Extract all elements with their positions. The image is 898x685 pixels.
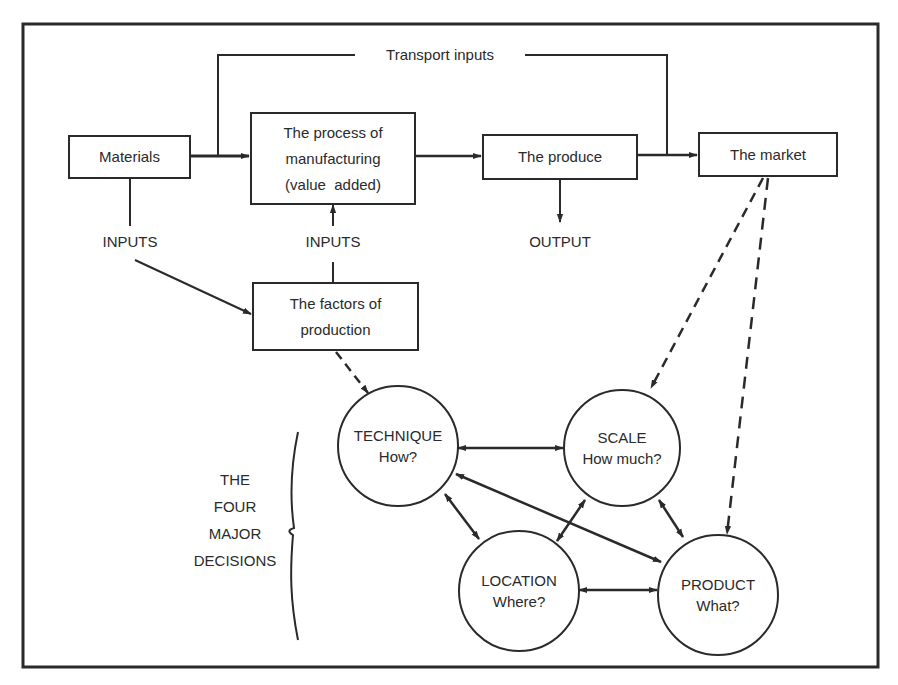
product-question: What? [696,595,739,616]
inputs-left-label: INPUTS [90,232,170,252]
product-circle: PRODUCT What? [657,534,779,656]
scale-circle: SCALE How much? [563,389,681,507]
factors-label-line2: production [300,317,370,343]
factors-box: The factors of production [252,282,419,351]
location-circle: LOCATION Where? [458,530,580,652]
technique-question: How? [379,446,417,467]
product-title: PRODUCT [681,574,755,595]
process-label-line3: (value added) [285,172,381,198]
location-question: Where? [493,591,546,612]
output-label: OUTPUT [520,232,600,252]
market-box: The market [698,132,838,177]
process-box: The process of manufacturing (value adde… [250,112,416,205]
location-title: LOCATION [481,570,557,591]
dashed-market-to-product [727,178,768,534]
market-label: The market [730,142,806,168]
four-decisions-line1: THE [180,466,290,493]
materials-box: Materials [68,135,191,179]
four-decisions-line4: DECISIONS [180,547,290,574]
dashed-market-to-scale [651,178,763,388]
arrow-inputs-to-factors [135,260,251,314]
technique-title: TECHNIQUE [354,425,442,446]
inputs-center-label: INPUTS [293,232,373,252]
produce-box: The produce [482,134,638,180]
four-decisions-line2: FOUR [180,493,290,520]
technique-circle: TECHNIQUE How? [337,385,459,507]
scale-question: How much? [582,448,661,469]
arrow-technique-location [445,494,479,539]
produce-label: The produce [518,144,602,170]
transport-inputs-label: Transport inputs [362,45,518,65]
materials-label: Materials [99,144,160,170]
four-decisions-label: THE FOUR MAJOR DECISIONS [180,466,290,574]
scale-title: SCALE [597,427,646,448]
four-decisions-line3: MAJOR [180,520,290,547]
factors-label-line1: The factors of [290,291,382,317]
process-label-line2: manufacturing [285,146,380,172]
dashed-factors-to-technique [336,352,368,393]
brace-icon [289,432,298,640]
arrow-scale-product [659,500,683,537]
process-label-line1: The process of [283,120,382,146]
